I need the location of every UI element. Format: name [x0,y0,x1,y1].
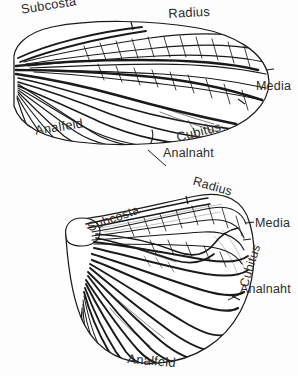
upper-label-analnaht: Analnaht [163,147,214,160]
lower-label-analfeld: Analfeld [127,352,177,369]
figure-page: Subcosta Radius Media Analfeld Cubitus A… [0,0,298,376]
upper-label-radius: Radius [168,5,210,20]
upper-wing-group [14,21,274,166]
wing-venation-figure [0,0,298,376]
lower-label-analnaht: Analnaht [240,283,291,296]
lower-label-media: Media [255,217,290,230]
upper-label-media: Media [256,80,291,93]
